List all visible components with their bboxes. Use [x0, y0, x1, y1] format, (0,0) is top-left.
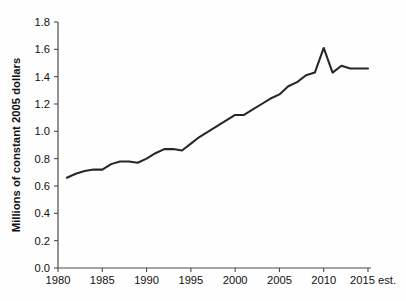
- y-tick-label: 0.4: [34, 207, 50, 219]
- y-tick-label: 0.6: [34, 180, 50, 192]
- x-tick-label: 1980: [46, 274, 71, 286]
- y-tick-label: 0.8: [34, 153, 50, 165]
- y-tick-label: 1.6: [34, 43, 50, 55]
- line-chart: Millions of constant 2005 dollars 0.00.2…: [0, 0, 406, 301]
- x-tick-label: 2015 est.: [350, 274, 396, 286]
- y-tick-label: 1.4: [34, 71, 50, 83]
- y-axis-title: Millions of constant 2005 dollars: [10, 58, 22, 233]
- x-axis-tick-labels: 19801985199019952000200520102015 est.: [46, 274, 396, 286]
- y-axis-tick-labels: 0.00.20.40.60.81.01.21.41.61.8: [34, 16, 50, 274]
- chart-container: Millions of constant 2005 dollars 0.00.2…: [0, 0, 406, 301]
- x-tick-label: 1985: [90, 274, 115, 286]
- y-tick-label: 0.2: [34, 235, 50, 247]
- x-tick-label: 2000: [223, 274, 248, 286]
- y-tick-label: 1.2: [34, 98, 50, 110]
- y-tick-label: 1.0: [34, 125, 50, 137]
- x-tick-label: 2005: [267, 274, 292, 286]
- x-tick-label: 1990: [134, 274, 159, 286]
- x-tick-label: 2010: [311, 274, 336, 286]
- y-tick-label: 0.0: [34, 262, 50, 274]
- x-tick-label: 1995: [178, 274, 203, 286]
- y-tick-label: 1.8: [34, 16, 50, 28]
- series-line-spending: [67, 48, 368, 178]
